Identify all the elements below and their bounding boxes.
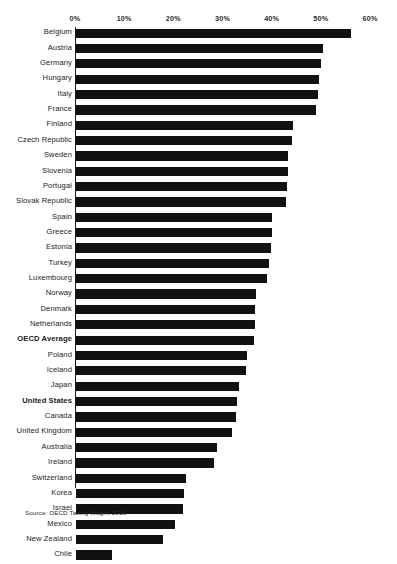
bar-fill xyxy=(76,474,186,483)
bar-label: Chile xyxy=(0,549,72,559)
x-axis-tick-60pct: 60% xyxy=(363,14,378,23)
bar-fill xyxy=(76,550,112,559)
bar-fill xyxy=(76,151,288,160)
bar-row: Korea xyxy=(0,488,397,503)
bar-fill xyxy=(76,489,184,498)
bar-label: Denmark xyxy=(0,304,72,314)
bar-row: Belgium xyxy=(0,27,397,42)
bar-fill xyxy=(76,59,321,68)
bar-row: Netherlands xyxy=(0,319,397,334)
bar xyxy=(76,228,272,237)
bar xyxy=(76,274,267,283)
bar-fill xyxy=(76,305,255,314)
bar-fill xyxy=(76,443,217,452)
bar-fill xyxy=(76,336,254,345)
bar-fill xyxy=(76,320,255,329)
bar xyxy=(76,243,271,252)
x-axis-tick-10pct: 10% xyxy=(117,14,132,23)
bar-label: Slovenia xyxy=(0,166,72,176)
bar-row: Spain xyxy=(0,211,397,226)
bar-row: United States xyxy=(0,395,397,410)
bar-fill xyxy=(76,197,286,206)
bar-row: Canada xyxy=(0,411,397,426)
bar-row: Hungary xyxy=(0,73,397,88)
bar-label: Mexico xyxy=(0,519,72,529)
bar-fill xyxy=(76,351,247,360)
bar-fill xyxy=(76,243,271,252)
bar xyxy=(76,351,247,360)
bar-row: Czech Republic xyxy=(0,134,397,149)
bar-fill xyxy=(76,228,272,237)
bar-label: Norway xyxy=(0,288,72,298)
bar-label: Sweden xyxy=(0,150,72,160)
bar-label: United Kingdom xyxy=(0,426,72,436)
bar xyxy=(76,75,319,84)
bar xyxy=(76,520,175,529)
bar-label: Netherlands xyxy=(0,319,72,329)
bar xyxy=(76,167,288,176)
bar xyxy=(76,44,323,53)
bar-label: Austria xyxy=(0,43,72,53)
bar xyxy=(76,151,288,160)
bar-label: Estonia xyxy=(0,242,72,252)
bar xyxy=(76,382,239,391)
bar-label: Ireland xyxy=(0,457,72,467)
bar-label: France xyxy=(0,104,72,114)
bar xyxy=(76,182,287,191)
bar xyxy=(76,259,269,268)
bar-row: Norway xyxy=(0,288,397,303)
x-axis-tick-30pct: 30% xyxy=(215,14,230,23)
bar-fill xyxy=(76,259,269,268)
bar-label: Portugal xyxy=(0,181,72,191)
bar-label: Japan xyxy=(0,380,72,390)
bar-row: Luxembourg xyxy=(0,273,397,288)
bar xyxy=(76,59,321,68)
x-axis-tick-20pct: 20% xyxy=(166,14,181,23)
bar-label: Canada xyxy=(0,411,72,421)
bar-label: Korea xyxy=(0,488,72,498)
bar-row: Greece xyxy=(0,227,397,242)
bar xyxy=(76,489,184,498)
bar-row: Poland xyxy=(0,349,397,364)
bar-label: United States xyxy=(0,396,72,406)
bar-label: Greece xyxy=(0,227,72,237)
bar-row: Switzerland xyxy=(0,472,397,487)
bar-label: Switzerland xyxy=(0,473,72,483)
bar-fill xyxy=(76,535,163,544)
bar-row: Slovenia xyxy=(0,165,397,180)
bar-row: Finland xyxy=(0,119,397,134)
bar-fill xyxy=(76,29,351,38)
bar-label: Poland xyxy=(0,350,72,360)
bar-fill xyxy=(76,366,246,375)
bar-label: Finland xyxy=(0,119,72,129)
bar-label: Italy xyxy=(0,89,72,99)
bar xyxy=(76,458,214,467)
bar-label: Spain xyxy=(0,212,72,222)
bar xyxy=(76,213,272,222)
source-note: Source: OECD Taxing Wages 2016 xyxy=(25,509,126,516)
bar-row: Mexico xyxy=(0,518,397,533)
bar-row: Austria xyxy=(0,42,397,57)
bar xyxy=(76,320,255,329)
bar-fill xyxy=(76,105,316,114)
bar-row: Australia xyxy=(0,441,397,456)
bar-row: Japan xyxy=(0,380,397,395)
bar-fill xyxy=(76,213,272,222)
bar-label: Germany xyxy=(0,58,72,68)
bar-row: Slovak Republic xyxy=(0,196,397,211)
bar-label: Czech Republic xyxy=(0,135,72,145)
x-axis-tick-0pct: 0% xyxy=(70,14,81,23)
bar-fill xyxy=(76,289,256,298)
bar xyxy=(76,412,236,421)
bar-label: Belgium xyxy=(0,27,72,37)
bar-fill xyxy=(76,75,319,84)
bar xyxy=(76,443,217,452)
bar-row: Portugal xyxy=(0,181,397,196)
bar-fill xyxy=(76,182,287,191)
bar-fill xyxy=(76,90,318,99)
x-axis-tick-50pct: 50% xyxy=(313,14,328,23)
bar-row: Denmark xyxy=(0,303,397,318)
bar-row: Chile xyxy=(0,549,397,564)
bar-label: New Zealand xyxy=(0,534,72,544)
